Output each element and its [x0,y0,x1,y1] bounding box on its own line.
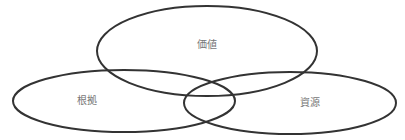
label-resources: 資源 [300,96,320,108]
venn-diagram: 価値 根拠 資源 [0,0,405,140]
ellipse-basis [13,70,235,132]
label-basis: 根拠 [77,94,97,106]
ellipse-value [97,6,317,96]
label-value: 価値 [197,38,217,50]
